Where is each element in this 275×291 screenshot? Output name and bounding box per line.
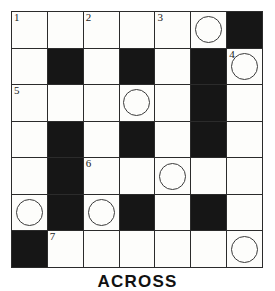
grid-cell-block <box>48 49 84 86</box>
grid-cell-block <box>191 122 227 159</box>
grid-cell-open[interactable] <box>12 195 48 232</box>
across-clues-heading: ACROSS <box>0 272 275 291</box>
grid-cell-open[interactable] <box>227 231 263 268</box>
grid-cell-open[interactable] <box>84 195 120 232</box>
cell-number: 1 <box>14 12 20 23</box>
grid-cell-open[interactable]: 3 <box>155 12 191 49</box>
cell-number: 4 <box>229 49 235 60</box>
cell-circle-marker <box>159 163 186 190</box>
grid-cell-block <box>48 122 84 159</box>
grid-cell-block <box>12 231 48 268</box>
grid-cell-block <box>227 12 263 49</box>
grid-cell-open[interactable] <box>84 122 120 159</box>
cell-circle-marker <box>195 16 222 43</box>
grid-cell-open[interactable] <box>120 158 156 195</box>
grid-cell-open[interactable] <box>84 85 120 122</box>
grid-cell-open[interactable] <box>191 12 227 49</box>
grid-cell-open[interactable] <box>120 231 156 268</box>
cell-circle-marker <box>16 199 43 226</box>
grid-cell-open[interactable] <box>191 158 227 195</box>
grid-cell-block <box>120 122 156 159</box>
grid-cell-block <box>191 195 227 232</box>
grid-cell-open[interactable]: 2 <box>84 12 120 49</box>
grid-cell-block <box>191 85 227 122</box>
grid-cell-open[interactable]: 4 <box>227 49 263 86</box>
grid-cell-open[interactable] <box>12 158 48 195</box>
grid-cell-open[interactable]: 7 <box>48 231 84 268</box>
grid-cell-open[interactable] <box>227 158 263 195</box>
cell-number: 7 <box>50 231 56 242</box>
cell-number: 5 <box>14 85 20 96</box>
grid-cell-open[interactable] <box>120 12 156 49</box>
grid-cell-open[interactable] <box>12 49 48 86</box>
cell-number: 3 <box>157 12 163 23</box>
cell-circle-marker <box>123 89 150 116</box>
grid-cell-block <box>120 195 156 232</box>
cell-number: 2 <box>86 12 92 23</box>
grid-cell-open[interactable] <box>155 195 191 232</box>
grid-cell-block <box>48 158 84 195</box>
grid-cell-block <box>191 49 227 86</box>
grid-cell-open[interactable] <box>227 195 263 232</box>
grid-cell-open[interactable] <box>155 85 191 122</box>
grid-cell-open[interactable] <box>120 85 156 122</box>
grid-cell-open[interactable] <box>84 231 120 268</box>
grid-cell-open[interactable] <box>48 85 84 122</box>
grid-cell-block <box>48 195 84 232</box>
grid-cell-open[interactable] <box>155 49 191 86</box>
grid-cell-block <box>120 49 156 86</box>
grid-cell-open[interactable] <box>155 158 191 195</box>
cell-circle-marker <box>88 199 115 226</box>
grid-cell-open[interactable] <box>12 122 48 159</box>
grid-cell-open[interactable] <box>155 122 191 159</box>
grid-cell-open[interactable] <box>48 12 84 49</box>
grid-cell-open[interactable]: 6 <box>84 158 120 195</box>
cell-circle-marker <box>231 236 258 263</box>
grid-cell-open[interactable] <box>227 122 263 159</box>
cell-number: 6 <box>86 158 92 169</box>
grid-cell-open[interactable]: 5 <box>12 85 48 122</box>
grid-cell-open[interactable]: 1 <box>12 12 48 49</box>
grid-cell-open[interactable] <box>84 49 120 86</box>
grid-cell-open[interactable] <box>155 231 191 268</box>
crossword-grid[interactable]: 1234567 <box>11 11 263 268</box>
grid-cell-open[interactable] <box>227 85 263 122</box>
grid-cell-open[interactable] <box>191 231 227 268</box>
cell-circle-marker <box>231 53 258 80</box>
